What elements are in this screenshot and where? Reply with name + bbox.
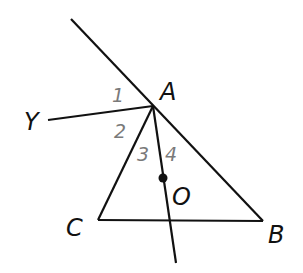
label-y: Y (24, 108, 41, 136)
segment-cb (98, 220, 263, 221)
point-o-dot (159, 174, 168, 183)
label-c: C (66, 214, 83, 242)
label-a: A (158, 78, 176, 106)
ray-ay (48, 106, 153, 120)
angle-label-2: 2 (114, 120, 126, 142)
diagram-canvas: A B C O Y 1 2 3 4 (0, 0, 303, 273)
label-b: B (268, 221, 284, 249)
line-extended-ab (71, 19, 263, 221)
angle-label-3: 3 (137, 143, 149, 165)
label-o: O (172, 183, 191, 211)
angle-label-4: 4 (165, 143, 177, 165)
angle-label-1: 1 (112, 84, 124, 106)
geometry-diagram: A B C O Y 1 2 3 4 (0, 0, 303, 273)
